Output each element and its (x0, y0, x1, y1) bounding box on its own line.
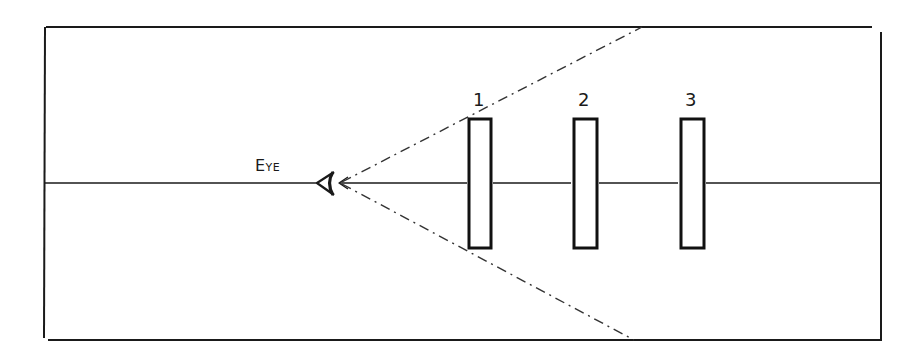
sightline-diagram: Eye 1 2 3 (0, 0, 919, 361)
screen-3-label: 3 (685, 89, 696, 110)
screen-3: 3 (681, 89, 704, 248)
screen-2: 2 (574, 89, 597, 248)
eye-label: Eye (255, 156, 280, 175)
screen-1: 1 (469, 89, 491, 248)
screen-2-label: 2 (578, 89, 589, 110)
screen-1-label: 1 (473, 89, 484, 110)
